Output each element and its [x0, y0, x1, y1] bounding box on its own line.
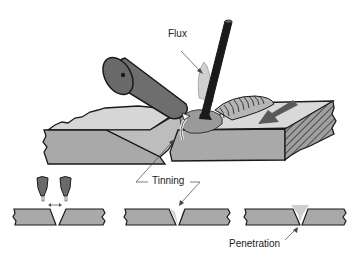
torch-orifice: [121, 73, 125, 77]
small-torch-left: [37, 177, 48, 202]
workpiece-assembly: [43, 96, 336, 164]
braze-welding-diagram: Flux Tinning: [0, 0, 360, 262]
stage-tinning: [124, 208, 230, 225]
stage-preheat: [13, 177, 105, 226]
stage-penetration: [244, 205, 346, 225]
right-plate-front: [170, 129, 285, 161]
tinning-label: Tinning: [152, 175, 184, 186]
flux-leader-line: [181, 51, 201, 72]
gap-double-arrow: [48, 203, 62, 207]
penetration-label: Penetration: [229, 238, 280, 249]
filler-rod-end: [225, 20, 232, 23]
small-torch-right: [60, 177, 71, 202]
flux-label: Flux: [168, 28, 187, 39]
